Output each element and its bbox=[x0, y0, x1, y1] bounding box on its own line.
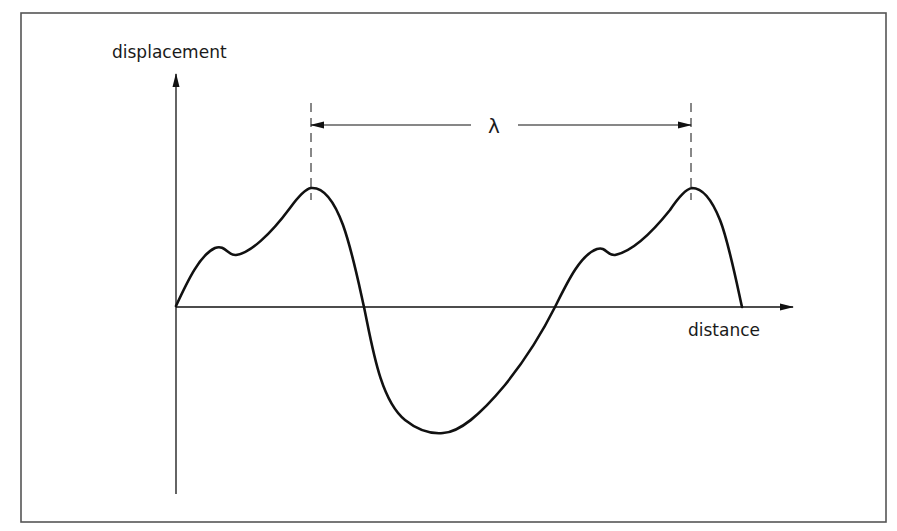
y-axis-label: displacement bbox=[112, 42, 227, 62]
wave-curve bbox=[176, 188, 742, 433]
wave-diagram: displacement distance λ bbox=[0, 0, 897, 531]
wavelength-symbol: λ bbox=[488, 114, 500, 138]
diagram-frame bbox=[21, 13, 886, 522]
x-axis-label: distance bbox=[688, 320, 760, 340]
